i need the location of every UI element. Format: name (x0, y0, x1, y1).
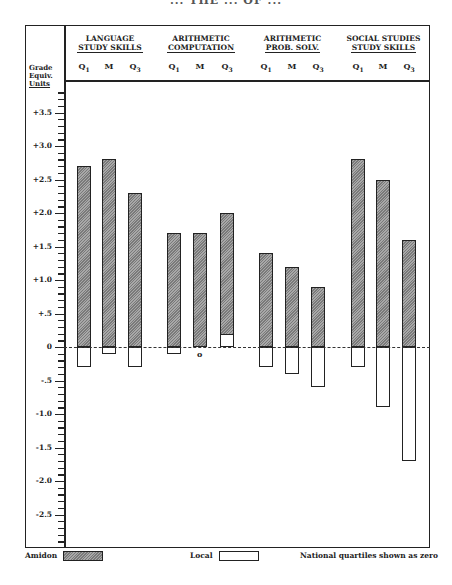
y-tick-label: +2.5 (22, 175, 52, 184)
y-tick-label: +3.5 (22, 108, 52, 117)
group-header-line2: PROB. SOLV. (265, 43, 320, 53)
subcategory-label: Q3 (127, 61, 143, 73)
amidon-bar (77, 166, 91, 347)
subcategory-label: Q3 (219, 61, 235, 73)
y-tick-label: +1.5 (22, 242, 52, 251)
group-header-line1: SOCIAL STUDIES (343, 34, 424, 43)
amidon-bar (376, 180, 390, 348)
subcategory-label: M (284, 61, 300, 71)
group-header-line2: STUDY SKILLS (351, 43, 416, 53)
subcategory-label: Q1 (166, 61, 182, 73)
y-tick-label: +.5 (22, 309, 52, 318)
legend-local-swatch (219, 551, 259, 561)
y-tick-label: 0 (22, 342, 52, 351)
subcategory-label: M (375, 61, 391, 71)
y-tick-label: -1.5 (22, 443, 52, 452)
group-header-line1: LANGUAGE (70, 34, 150, 43)
amidon-bar (102, 159, 116, 347)
local-bar (167, 347, 181, 354)
amidon-bar (193, 233, 207, 347)
legend-local-label: Local (190, 551, 213, 560)
legend-amidon-swatch (63, 551, 103, 561)
chart-title: ... THE ... OF ... (0, 0, 452, 7)
group-header: SOCIAL STUDIESSTUDY SKILLS (343, 34, 424, 53)
group-header: LANGUAGESTUDY SKILLS (70, 34, 150, 53)
y-axis-label: Grade Equiv. Units (29, 64, 53, 88)
y-tick-label: -2.5 (22, 510, 52, 519)
local-bar (220, 334, 234, 347)
local-bar (77, 347, 91, 367)
amidon-bar (402, 240, 416, 347)
local-bar (311, 347, 325, 387)
y-axis-line (64, 81, 66, 548)
group-header-line2: COMPUTATION (167, 43, 235, 53)
local-bar (402, 347, 416, 461)
subcategory-label: M (192, 61, 208, 71)
y-tick-label: -.5 (22, 376, 52, 385)
legend-amidon-label: Amidon (25, 551, 57, 560)
zero-value-marker: o (197, 349, 202, 359)
group-header: ARITHMETICPROB. SOLV. (253, 34, 332, 53)
header-divider (64, 80, 430, 82)
amidon-bar (311, 287, 325, 347)
amidon-bar (351, 159, 365, 347)
subcategory-label: M (101, 61, 117, 71)
zero-baseline (64, 347, 430, 348)
amidon-bar (167, 233, 181, 347)
y-tick-label: +1.0 (22, 275, 52, 284)
y-tick-label: +2.0 (22, 208, 52, 217)
group-header: ARITHMETICCOMPUTATION (162, 34, 240, 53)
y-axis-label-line: Units (29, 80, 53, 88)
amidon-bar (128, 193, 142, 347)
local-bar (351, 347, 365, 367)
local-bar (128, 347, 142, 367)
local-bar (102, 347, 116, 354)
y-tick-label: -1.0 (22, 409, 52, 418)
amidon-bar (285, 267, 299, 347)
group-header-line1: ARITHMETIC (162, 34, 240, 43)
amidon-bar (220, 213, 234, 347)
local-bar (376, 347, 390, 407)
subcategory-label: Q3 (310, 61, 326, 73)
legend-note: National quartiles shown as zero (300, 551, 438, 560)
y-tick-label: -2.0 (22, 476, 52, 485)
y-tick-label: +3.0 (22, 141, 52, 150)
local-bar (285, 347, 299, 374)
subcategory-label: Q1 (258, 61, 274, 73)
group-header-line2: STUDY SKILLS (77, 43, 142, 53)
subcategory-label: Q3 (401, 61, 417, 73)
amidon-bar (259, 253, 273, 347)
subcategory-label: Q1 (76, 61, 92, 73)
group-header-line1: ARITHMETIC (253, 34, 332, 43)
local-bar (259, 347, 273, 367)
subcategory-label: Q1 (350, 61, 366, 73)
